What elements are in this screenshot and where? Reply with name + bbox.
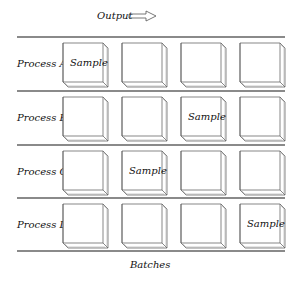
batch-box [180,150,228,196]
batch-box: Sample [239,203,287,249]
batch-box [239,96,287,142]
row-label: Process C [17,166,67,177]
batch-box [121,203,169,249]
batch-box [121,96,169,142]
cube-icon [180,203,228,249]
cube-icon [121,203,169,249]
batch-box [62,150,110,196]
row-label: Process B [17,112,67,123]
divider-line [17,90,285,92]
row-label: Process D [17,219,68,230]
cube-icon [62,203,110,249]
batch-box [180,203,228,249]
row-label: Process A [17,58,67,69]
batch-box: Sample [121,150,169,196]
divider-line [17,36,285,38]
batch-box [180,42,228,88]
cube-icon [62,150,110,196]
batch-box [121,42,169,88]
batches-label: Batches [130,259,170,270]
cube-icon [239,150,287,196]
batch-box [239,42,287,88]
cube-icon [121,42,169,88]
batch-box: Sample [180,96,228,142]
batch-box [239,150,287,196]
batch-box [62,96,110,142]
cube-icon [239,42,287,88]
cube-icon [239,96,287,142]
cube-icon [180,42,228,88]
cube-icon [62,96,110,142]
sample-label: Sample [70,57,108,68]
divider-line [17,144,285,146]
cube-icon [121,96,169,142]
batch-box [62,203,110,249]
cube-icon [180,150,228,196]
divider-line [17,197,285,199]
sample-label: Sample [247,218,285,229]
arrow-right-icon [128,10,158,22]
batch-box: Sample [62,42,110,88]
sample-label: Sample [129,165,167,176]
sample-label: Sample [188,111,226,122]
divider-line [17,250,285,252]
